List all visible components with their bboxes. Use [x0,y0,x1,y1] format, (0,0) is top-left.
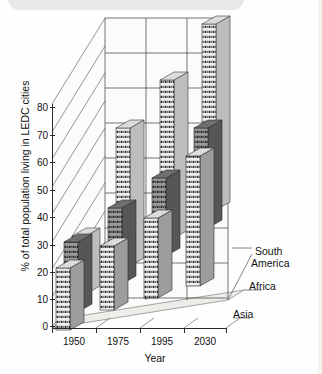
y-tick-label-0: 0 [42,321,48,332]
legend-label-south-america-line2: America [251,258,290,269]
x-tick-label-2030: 2030 [194,336,216,347]
x-tick-label-1950: 1950 [63,336,85,347]
y-tick-30 [50,245,55,246]
x-axis-title: Year [100,352,210,364]
x-tick-label-1995: 1995 [151,336,173,347]
y-tick-80 [50,107,55,108]
y-tick-50 [50,190,55,191]
axes-layer: 0 10 20 30 40 50 60 70 80 % of total pop… [0,0,322,374]
legend-label-asia: Asia [233,309,253,320]
y-tick-label-80: 80 [37,102,48,113]
y-tick-40 [50,217,55,218]
x-tick-start [52,328,53,333]
x-tick-1975 [140,328,141,333]
legend-label-south-america-line1: South [255,246,282,257]
x-tick-1950 [96,328,97,333]
y-tick-0 [50,326,55,327]
x-tick-label-1975: 1975 [107,336,129,347]
y-tick-label-70: 70 [37,130,48,141]
x-axis-line [52,328,226,329]
y-tick-label-30: 30 [37,240,48,251]
y-tick-20 [50,272,55,273]
y-axis-line [52,104,53,328]
x-tick-1995 [184,328,185,333]
bar-chart-3d: 0 10 20 30 40 50 60 70 80 % of total pop… [0,0,322,374]
y-tick-label-20: 20 [37,267,48,278]
x-tick-2030 [226,328,227,333]
y-tick-label-50: 50 [37,185,48,196]
y-tick-10 [50,299,55,300]
y-tick-70 [50,135,55,136]
y-axis-title: % of total population living in LEDC cit… [19,61,31,291]
chart-page: 0 10 20 30 40 50 60 70 80 % of total pop… [0,0,322,374]
y-tick-60 [50,162,55,163]
legend-label-africa: Africa [249,281,276,292]
y-tick-label-40: 40 [37,212,48,223]
y-tick-label-60: 60 [37,157,48,168]
y-tick-label-10: 10 [37,294,48,305]
